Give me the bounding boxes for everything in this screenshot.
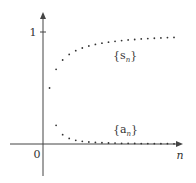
data-point	[62, 59, 64, 61]
data-point	[134, 39, 136, 41]
data-point	[114, 40, 116, 42]
data-point	[153, 37, 155, 39]
series-a-label: {an}	[113, 123, 138, 138]
data-point	[75, 139, 77, 141]
data-point	[88, 141, 90, 143]
series-s-points	[49, 36, 175, 88]
series-s-label-main: {s	[113, 49, 126, 62]
y-axis-arrow-icon	[40, 12, 46, 19]
data-point	[153, 143, 155, 145]
data-point	[140, 38, 142, 40]
series-a-label-close: }	[131, 123, 138, 136]
data-point	[127, 39, 129, 41]
data-point	[101, 42, 103, 44]
data-point	[49, 87, 51, 89]
data-point	[160, 143, 162, 145]
series-s-label-close: }	[130, 49, 137, 62]
series-a-label-main: {a	[113, 123, 127, 136]
data-point	[173, 143, 175, 145]
data-point	[62, 134, 64, 136]
sequence-plot: 1 0 n {sn} {an}	[0, 0, 196, 183]
data-point	[88, 45, 90, 47]
origin-label: 0	[34, 148, 41, 161]
data-point	[108, 41, 110, 43]
data-point	[160, 37, 162, 39]
x-axis-arrow-icon	[176, 141, 183, 147]
data-point	[140, 143, 142, 145]
data-point	[95, 44, 97, 46]
data-point	[108, 142, 110, 144]
data-point	[81, 47, 83, 49]
series-s-label: {sn}	[113, 49, 137, 64]
x-axis-label: n	[176, 149, 183, 162]
data-point	[121, 40, 123, 42]
data-point	[68, 138, 70, 140]
data-point	[134, 143, 136, 145]
data-point	[147, 143, 149, 145]
data-point	[75, 50, 77, 52]
data-point	[68, 54, 70, 56]
data-point	[81, 140, 83, 142]
data-point	[167, 143, 169, 145]
data-point	[167, 37, 169, 39]
data-point	[114, 142, 116, 144]
data-point	[101, 142, 103, 144]
data-point	[55, 124, 57, 126]
data-point	[95, 142, 97, 144]
data-point	[173, 36, 175, 38]
data-point	[147, 38, 149, 40]
data-point	[127, 142, 129, 144]
y-tick-label-1: 1	[30, 26, 37, 39]
data-point	[55, 68, 57, 70]
data-point	[121, 142, 123, 144]
